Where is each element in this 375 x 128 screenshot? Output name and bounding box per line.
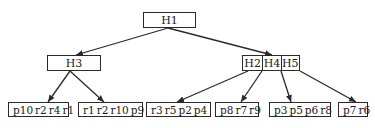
leaf-node-6: p7 r6 (338, 102, 368, 117)
leaf-item: r3 (151, 104, 163, 116)
edge-h5-leaf5 (281, 71, 291, 102)
edge-h4-leaf4 (241, 71, 262, 102)
node-h3: H3 (47, 55, 101, 71)
leaf-item: r1 (63, 104, 75, 116)
edge-h1-h3 (76, 28, 168, 55)
edge-h2-leaf3 (177, 71, 248, 102)
node-h1: H1 (143, 12, 196, 28)
leaf-node-3: r3 r5 p2 p4 (146, 102, 211, 117)
edge-h5-leaf6 (300, 71, 356, 102)
tree-diagram: H1 H3 H2 H4 H5 p10 r2 r4 r1 r1 r2 r10 p9… (0, 0, 375, 128)
leaf-item: r4 (49, 104, 61, 116)
edge-h3-leaf2 (70, 71, 104, 102)
leaf-item: r8 (320, 104, 332, 116)
leaf-item: p5 (289, 104, 302, 116)
leaf-item: r1 (83, 104, 95, 116)
leaf-item: r9 (249, 104, 261, 116)
leaf-item: p10 (13, 104, 33, 116)
cell-h5: H5 (281, 56, 299, 70)
leaf-node-4: p8 r7 r9 (215, 102, 259, 117)
leaf-item: p2 (178, 104, 191, 116)
leaf-item: p9 (131, 104, 144, 116)
leaf-item: r10 (110, 104, 128, 116)
leaf-item: p3 (274, 104, 287, 116)
edge-h3-leaf1 (48, 71, 70, 102)
edge-h1-h4 (168, 28, 272, 55)
leaf-item: p4 (194, 104, 207, 116)
leaf-item: r7 (235, 104, 247, 116)
leaf-node-2: r1 r2 r10 p9 (78, 102, 143, 117)
cell-h2: H2 (243, 56, 262, 70)
leaf-item: p8 (220, 104, 233, 116)
node-h3-label: H3 (66, 57, 83, 70)
leaf-item: p6 (305, 104, 318, 116)
leaf-item: r2 (97, 104, 109, 116)
leaf-item: r6 (358, 104, 370, 116)
cell-h4: H4 (262, 56, 280, 70)
leaf-item: r5 (165, 104, 177, 116)
leaf-item: p7 (343, 104, 356, 116)
leaf-node-1: p10 r2 r4 r1 (8, 102, 69, 117)
node-h1-label: H1 (161, 14, 178, 27)
leaf-item: r2 (35, 104, 47, 116)
leaf-node-5: p3 p5 p6 r8 (269, 102, 331, 117)
node-h2-h4-h5: H2 H4 H5 (242, 55, 300, 71)
